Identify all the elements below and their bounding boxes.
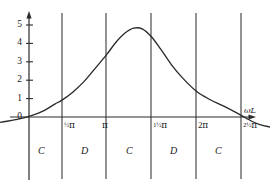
x-tick-label-one-half-pi: 1½π (153, 121, 167, 130)
plot-canvas (0, 0, 270, 184)
region-label-3: D (170, 146, 177, 156)
y-tick-label-3: 3 (8, 57, 22, 67)
y-axis-arrow-icon (26, 11, 31, 19)
region-label-1: D (81, 146, 88, 156)
x-tick-pi-1: π (102, 120, 108, 130)
chart-figure: 5 4 3 2 1 0 ½π π 1½π 2π 2½π ωL C D C D C (0, 0, 270, 184)
x-axis-title: ωL (244, 106, 256, 115)
x-tick-frac-two-half: 2½ (243, 122, 251, 129)
y-tick-label-2: 2 (8, 75, 22, 85)
x-tick-pi-3: π (202, 120, 208, 130)
x-axis (10, 114, 256, 119)
x-tick-label-half-pi: ½π (64, 121, 75, 130)
x-tick-frac-one-half: 1½ (153, 122, 161, 129)
y-tick-label-1: 1 (8, 94, 22, 104)
x-axis-title-text: ωL (244, 106, 256, 115)
x-tick-pi-0: π (69, 120, 75, 130)
x-tick-label-two-half-pi: 2½π (243, 121, 257, 130)
region-label-4: C (215, 146, 222, 156)
region-label-2: C (126, 146, 133, 156)
y-tick-label-5: 5 (8, 20, 22, 30)
y-tick-label-4: 4 (8, 38, 22, 48)
x-tick-label-pi: π (102, 121, 108, 130)
y-axis (26, 11, 33, 180)
x-tick-label-two-pi: 2π (198, 121, 208, 130)
x-tick-pi-2: π (161, 120, 167, 130)
x-tick-pi-4: π (251, 120, 257, 130)
region-label-0: C (38, 146, 45, 156)
y-tick-label-0: 0 (8, 112, 22, 122)
x-axis-arrow-icon (249, 114, 257, 119)
data-curve (0, 28, 270, 129)
